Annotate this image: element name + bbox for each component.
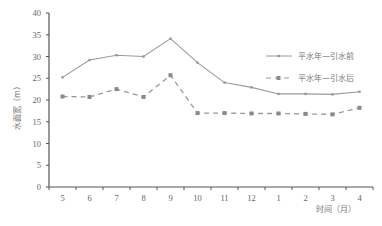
y-tick-label: 40 — [33, 8, 42, 18]
legend-label-before: 平水年—引水前 — [298, 51, 354, 61]
y-tick-label: 5 — [37, 160, 41, 170]
y-tick-label: 10 — [33, 139, 42, 149]
data-point-marker — [331, 112, 335, 116]
data-point-marker — [88, 59, 90, 61]
y-tick-label: 25 — [33, 73, 42, 83]
x-tick-label: 5 — [60, 193, 64, 203]
x-tick-label: 4 — [357, 193, 362, 203]
series-line-0 — [63, 39, 360, 95]
data-point-marker — [304, 112, 308, 116]
y-tick-label: 15 — [33, 117, 42, 127]
legend: 平水年—引水前 平水年—引水后 — [266, 51, 354, 83]
x-axis-title: 时间（月） — [316, 204, 356, 214]
data-point-marker — [331, 93, 333, 95]
line-chart: 0510152025303540 567891011121234 水面宽（m） … — [0, 0, 382, 226]
legend-label-after: 平水年—引水后 — [298, 73, 354, 83]
data-point-marker — [250, 86, 252, 88]
x-tick-label: 12 — [247, 193, 256, 203]
data-point-marker — [169, 73, 173, 77]
y-axis-title: 水面宽（m） — [12, 82, 22, 130]
x-tick-label: 3 — [330, 193, 334, 203]
x-axis: 567891011121234 — [49, 187, 373, 203]
y-tick-label: 20 — [33, 95, 42, 105]
y-axis: 0510152025303540 — [33, 8, 50, 192]
data-point-marker — [142, 55, 144, 57]
data-point-marker — [196, 61, 198, 63]
data-point-marker — [358, 106, 362, 110]
x-tick-label: 2 — [303, 193, 307, 203]
data-point-marker — [115, 54, 117, 56]
data-point-marker — [142, 95, 146, 99]
x-tick-label: 7 — [114, 193, 118, 203]
x-tick-label: 1 — [276, 193, 280, 203]
x-tick-label: 9 — [168, 193, 172, 203]
legend-item-before: 平水年—引水前 — [266, 51, 354, 61]
data-point-marker — [358, 91, 360, 93]
legend-item-after: 平水年—引水后 — [266, 73, 354, 83]
data-point-marker — [61, 76, 63, 78]
y-tick-label: 0 — [37, 182, 41, 192]
data-point-marker — [169, 37, 171, 39]
data-point-marker — [223, 81, 225, 83]
x-tick-label: 11 — [220, 193, 228, 203]
data-point-marker — [61, 95, 65, 99]
x-tick-label: 6 — [87, 193, 91, 203]
data-point-marker — [277, 111, 281, 115]
y-tick-label: 30 — [33, 52, 42, 62]
data-point-marker — [115, 87, 119, 91]
y-tick-label: 35 — [33, 30, 42, 40]
data-point-marker — [277, 93, 279, 95]
data-point-marker — [223, 111, 227, 115]
data-point-marker — [196, 111, 200, 115]
data-point-marker — [304, 93, 306, 95]
data-point-marker — [250, 111, 254, 115]
x-tick-label: 10 — [193, 193, 202, 203]
data-point-marker — [88, 95, 92, 99]
x-tick-label: 8 — [141, 193, 145, 203]
